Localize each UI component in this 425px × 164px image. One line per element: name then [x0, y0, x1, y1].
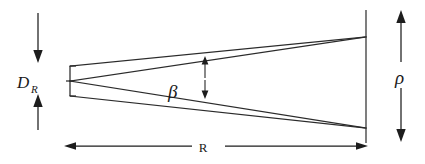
aperture-up-arrowhead: [33, 94, 42, 107]
divergence-angle-label: β: [167, 81, 178, 102]
ray-vertex-to-top: [70, 37, 366, 81]
beam-rays-group: [70, 37, 366, 128]
aperture-down-arrowhead: [33, 50, 42, 63]
ray-upper-envelope: [70, 37, 366, 66]
aperture-label-group: D R: [16, 73, 38, 95]
ray-lower-envelope: [70, 96, 366, 128]
beta-down-arrowhead: [202, 91, 209, 100]
range-right-arrowhead: [356, 142, 368, 150]
spot-up-arrowhead: [396, 10, 405, 23]
range-label: R: [199, 140, 208, 155]
spot-size-label: ρ: [394, 67, 404, 88]
beta-dimension-group: [202, 56, 209, 99]
ray-vertex-to-bottom: [70, 81, 366, 128]
aperture-label-symbol: D: [16, 73, 30, 92]
beam-divergence-diagram: D R β ρ R: [0, 0, 425, 164]
aperture-label-subscript: R: [30, 83, 38, 95]
aperture-dimension-group: [33, 13, 42, 130]
spot-down-arrowhead: [396, 129, 405, 142]
range-dimension-group: [64, 142, 368, 150]
diagram-canvas: D R β ρ R: [0, 0, 425, 164]
